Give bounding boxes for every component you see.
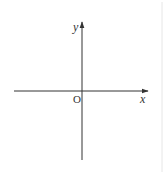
y-axis-label: y — [72, 20, 79, 34]
coordinate-axes-diagram: y O x — [0, 0, 165, 178]
x-axis-label: x — [139, 92, 146, 106]
origin-label: O — [73, 93, 81, 105]
